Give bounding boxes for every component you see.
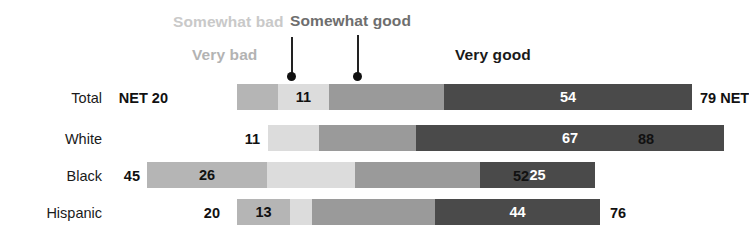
bar-row-total: Total NET 20 11 54 79 NET	[0, 84, 706, 114]
net-left-white: 11	[190, 126, 260, 152]
segment-value-somewhat-bad-total: 11	[296, 90, 311, 105]
row-label-white: White	[0, 126, 102, 152]
legend-label-somewhat-good: Somewhat good	[290, 12, 411, 30]
segment-somewhat-good-hispanic	[312, 199, 435, 225]
net-left-total: NET 20	[98, 85, 168, 111]
net-right-white: 88	[638, 126, 654, 152]
net-right-hispanic: 76	[610, 200, 626, 226]
segment-very-good-total: 54	[444, 84, 692, 110]
segment-somewhat-good-white	[319, 125, 416, 151]
segment-very-bad-black: 26	[147, 162, 267, 188]
segment-value-very-good-hispanic: 44	[509, 205, 525, 220]
segment-somewhat-bad-total: 11	[278, 84, 329, 110]
segment-value-very-good-total: 54	[560, 90, 576, 105]
leader-line-somewhat-good	[357, 35, 359, 74]
segment-value-very-bad-hispanic: 13	[255, 205, 271, 220]
segment-very-good-hispanic: 44	[435, 199, 600, 225]
segment-somewhat-bad-black	[267, 162, 355, 188]
net-left-hispanic: 20	[168, 200, 220, 226]
legend-label-very-good: Very good	[455, 46, 531, 64]
row-label-total: Total	[0, 85, 102, 111]
segment-very-bad-hispanic: 13	[237, 199, 290, 225]
bar-row-black: Black 45 26 25 52	[0, 162, 706, 192]
row-label-black: Black	[0, 163, 102, 189]
segment-somewhat-good-black	[355, 162, 480, 188]
segment-very-good-white: 67	[416, 125, 724, 151]
segment-somewhat-bad-hispanic	[290, 199, 312, 225]
bar-row-white: White 11 67 88	[0, 125, 706, 155]
net-left-black: 45	[104, 163, 140, 189]
segment-value-very-bad-black: 26	[199, 168, 215, 183]
net-right-black: 52	[513, 163, 529, 189]
bar-row-hispanic: Hispanic 20 13 44 76	[0, 199, 706, 229]
legend-label-very-bad: Very bad	[192, 46, 257, 64]
segment-value-very-good-black: 25	[529, 168, 545, 183]
leader-dot-somewhat-good	[353, 72, 362, 81]
leader-line-somewhat-bad	[291, 37, 293, 74]
segment-very-bad-total	[237, 84, 278, 110]
segment-somewhat-bad-white	[268, 125, 319, 151]
segment-very-good-black: 25	[480, 162, 595, 188]
legend-label-somewhat-bad: Somewhat bad	[173, 13, 284, 31]
segment-value-very-good-white: 67	[562, 131, 578, 146]
net-right-total: 79 NET	[700, 85, 749, 111]
leader-dot-somewhat-bad	[287, 72, 296, 81]
segment-somewhat-good-total	[329, 84, 444, 110]
row-label-hispanic: Hispanic	[0, 200, 102, 226]
